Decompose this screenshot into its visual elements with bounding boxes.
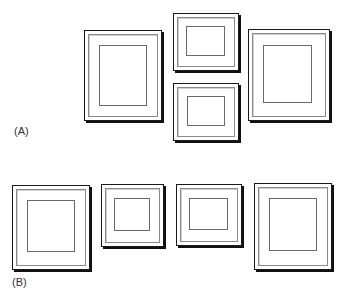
picture-frame-b1 [12,185,90,270]
picture-frame-a3 [173,83,239,141]
picture-frame-a1 [84,30,162,121]
picture-frame-a2 [173,13,239,71]
picture-opening [114,198,150,231]
picture-opening [99,45,147,106]
picture-opening [27,200,75,252]
picture-frame-b4 [254,183,332,270]
picture-opening [187,96,225,126]
picture-frame-a4 [248,29,330,121]
picture-opening [263,45,312,103]
arrangement-label-b: (B) [12,276,27,288]
picture-opening [269,198,317,251]
picture-frame-b2 [101,184,164,247]
picture-opening [189,198,228,230]
picture-opening [186,26,225,56]
arrangement-label-a: (A) [14,125,29,137]
picture-frame-b3 [176,184,242,246]
